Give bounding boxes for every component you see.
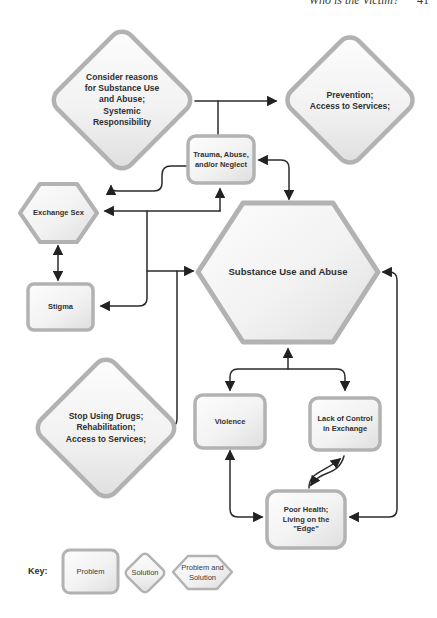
key-problem-shape — [63, 550, 118, 593]
consider-diamond-shape — [48, 26, 195, 173]
connector-trauma-substance — [259, 160, 289, 199]
prevention-diamond-shape — [282, 32, 418, 168]
connector-violence-poor-health — [230, 451, 262, 517]
lack-control-box-shape — [310, 398, 380, 450]
key-problem-solution-shape — [173, 556, 232, 589]
book-page: Who is the Victim?41 — [0, 0, 437, 618]
stigma-box-shape — [28, 284, 93, 330]
trauma-box-shape — [188, 136, 254, 183]
connector-violence-lack-branch — [230, 369, 345, 390]
connector-to-stigma — [101, 211, 147, 306]
flowchart-canvas — [0, 0, 437, 618]
violence-box-shape — [195, 395, 265, 448]
substance-hexagon-shape — [198, 203, 378, 342]
key-solution-shape — [124, 552, 166, 594]
exchange-sex-hexagon-shape — [20, 184, 97, 242]
shape-layer — [20, 26, 418, 594]
stop-drugs-diamond-shape — [32, 354, 179, 501]
connector-poor-health-to-lack — [309, 459, 340, 488]
poor-health-box-shape — [267, 491, 345, 548]
